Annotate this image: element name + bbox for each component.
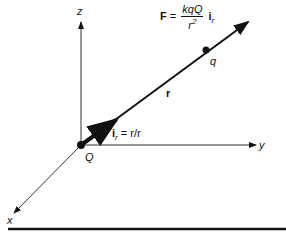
denominator: r2 [181, 17, 203, 31]
test-charge-label: q [210, 56, 216, 67]
position-vector-label: r [166, 88, 170, 99]
force-symbol: F [160, 10, 167, 22]
unit-vector-def-rest: = r/r [118, 127, 141, 139]
fraction: kqQ r2 [181, 4, 203, 31]
test-charge-dot [203, 47, 210, 54]
origin-charge-dot [77, 141, 85, 149]
unit-vector-ir [81, 120, 116, 145]
numerator: kqQ [181, 4, 203, 17]
z-axis-label: z [77, 6, 83, 17]
x-axis-label: x [7, 215, 13, 226]
unit-vector-sub: r [212, 16, 215, 25]
x-axis [14, 145, 81, 213]
origin-charge-label: Q [85, 152, 94, 163]
unit-vector-definition: ir = r/r [112, 128, 141, 142]
coordinate-diagram [0, 0, 286, 235]
denominator-exp: 2 [192, 17, 196, 26]
equals-sign: = [170, 10, 176, 22]
coulomb-force-formula: F = kqQ r2 ir [160, 4, 214, 31]
y-axis-label: y [259, 140, 265, 151]
